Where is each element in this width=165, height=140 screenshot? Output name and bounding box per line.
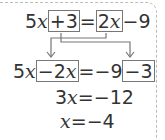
variable-x: x <box>66 60 77 82</box>
variable-x: x <box>25 60 36 82</box>
term-5: 5 <box>13 60 25 82</box>
boxed-term-minus3: −3 <box>122 60 154 82</box>
coef-2: 2 <box>98 10 110 32</box>
equals-minus9: =−9 <box>79 60 123 82</box>
variable-x: x <box>37 10 48 32</box>
boxed-term-2x: 2x <box>96 10 123 32</box>
variable-x: x <box>110 10 121 32</box>
term-minus9: −9 <box>123 10 151 32</box>
variable-x: x <box>60 110 71 132</box>
term-5: 5 <box>25 10 37 32</box>
boxed-term-minus2x: −2x <box>36 60 79 82</box>
equals-minus4: =−4 <box>71 110 115 132</box>
variable-x: x <box>67 86 78 108</box>
equals-minus12: =−12 <box>78 86 134 108</box>
coef-3: 3 <box>55 86 67 108</box>
coef-minus2: −2 <box>38 60 66 82</box>
equals-sign: = <box>80 10 96 32</box>
equation-line-2: 5x−2x=−9−3 <box>13 60 155 82</box>
equation-line-3: 3x=−12 <box>55 86 134 108</box>
boxed-term-plus3: +3 <box>48 10 80 32</box>
equation-line-1: 5x+3=2x−9 <box>25 10 151 32</box>
equation-line-4: x=−4 <box>60 110 115 132</box>
